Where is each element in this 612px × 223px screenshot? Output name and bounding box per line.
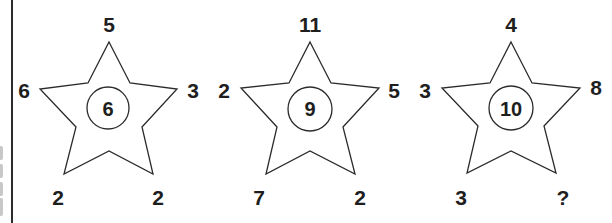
star-2-top-number: 11 bbox=[299, 14, 321, 35]
star-3-left-number: 3 bbox=[419, 80, 431, 101]
star-2-left-number: 2 bbox=[218, 80, 230, 101]
star-1-bottom-right-number: 2 bbox=[152, 187, 164, 208]
star-3-center-number: 10 bbox=[500, 99, 522, 120]
star-1-left-number: 6 bbox=[18, 80, 30, 101]
star-1-bottom-left-number: 2 bbox=[52, 187, 64, 208]
star-1-center-number: 6 bbox=[102, 99, 113, 120]
star-3-bottom-left-number: 3 bbox=[455, 187, 467, 208]
star-1-right-number: 3 bbox=[187, 80, 199, 101]
star-3-bottom-right-unknown: ? bbox=[557, 187, 570, 208]
star-2-bottom-left-number: 7 bbox=[253, 187, 265, 208]
star-3-right-number: 8 bbox=[590, 77, 602, 98]
star-2-bottom-right-number: 2 bbox=[354, 187, 366, 208]
star-3-top-number: 4 bbox=[505, 14, 517, 35]
star-2-center-number: 9 bbox=[304, 99, 315, 120]
star-2-right-number: 5 bbox=[388, 80, 400, 101]
star-1-top-number: 5 bbox=[103, 14, 115, 35]
